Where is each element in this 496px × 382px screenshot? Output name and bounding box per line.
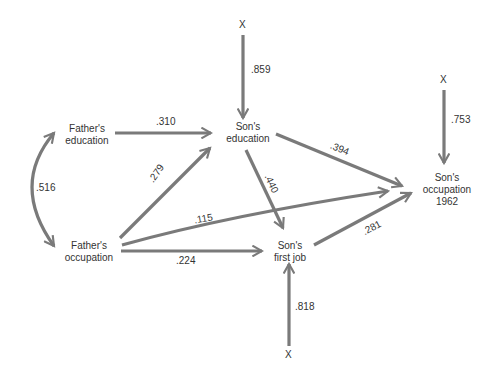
node-label-line2: occupation <box>414 184 480 196</box>
node-label-line1: Son's <box>262 240 318 252</box>
coef-fathers-occupation-to-sons-first-job: .224 <box>176 255 195 266</box>
residual-x-sons-first-job: X <box>285 349 292 360</box>
node-sons-occupation-1962: Son's occupation 1962 <box>414 172 480 208</box>
node-label-line1: Son's <box>218 121 278 133</box>
node-label-line3: 1962 <box>414 196 480 208</box>
coef-correlation-fathers: .516 <box>36 182 55 193</box>
node-sons-first-job: Son's first job <box>262 240 318 264</box>
coef-residual-sons-occupation: .753 <box>451 114 470 125</box>
coef-residual-sons-first-job: .818 <box>295 301 314 312</box>
coef-residual-sons-education: .859 <box>251 64 270 75</box>
residual-x-sons-occupation: X <box>440 74 447 85</box>
node-label-line1: Father's <box>62 123 112 135</box>
node-label-line2: education <box>62 135 112 147</box>
node-label-line2: occupation <box>60 252 118 264</box>
node-label-line1: Father's <box>60 240 118 252</box>
node-fathers-occupation: Father's occupation <box>60 240 118 264</box>
node-sons-education: Son's education <box>218 121 278 145</box>
node-fathers-education: Father's education <box>62 123 112 147</box>
residual-x-sons-education: X <box>239 19 246 30</box>
arrow-fathers-occupation-to-sons-occupation <box>122 191 388 245</box>
coef-fathers-education-to-sons-education: .310 <box>156 116 175 127</box>
node-label-line2: first job <box>262 252 318 264</box>
node-label-line1: Son's <box>414 172 480 184</box>
node-label-line2: education <box>218 133 278 145</box>
